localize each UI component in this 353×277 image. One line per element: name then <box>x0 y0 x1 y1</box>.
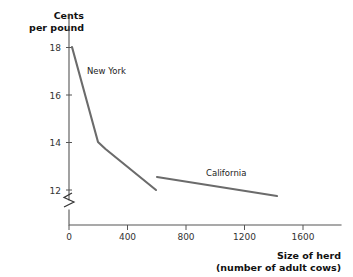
y-tick-label-12: 12 <box>50 186 61 196</box>
x-tick-label-1200: 1200 <box>233 232 256 242</box>
y-axis-break-icon <box>64 193 74 207</box>
x-axis-title: Size of herd <box>277 250 341 261</box>
y-tick-label-14: 14 <box>50 138 62 148</box>
x-axis-subtitle: (number of adult cows) <box>216 262 341 273</box>
series-label-new-york: New York <box>87 66 126 76</box>
x-tick-label-0: 0 <box>66 232 72 242</box>
y-tick-label-16: 16 <box>50 91 62 101</box>
y-axis-title-line2: per pound <box>29 22 84 33</box>
series-line-california <box>157 177 277 196</box>
x-axis-line <box>69 210 341 225</box>
x-tick-label-400: 400 <box>119 232 136 242</box>
line-chart-svg: Cents per pound 18 16 14 12 0 400 800 12… <box>0 0 353 277</box>
y-tick-label-18: 18 <box>50 43 62 53</box>
x-tick-label-800: 800 <box>177 232 194 242</box>
series-label-california: California <box>206 168 246 178</box>
x-tick-label-1600: 1600 <box>292 232 315 242</box>
chart-figure: Cents per pound 18 16 14 12 0 400 800 12… <box>0 0 353 277</box>
